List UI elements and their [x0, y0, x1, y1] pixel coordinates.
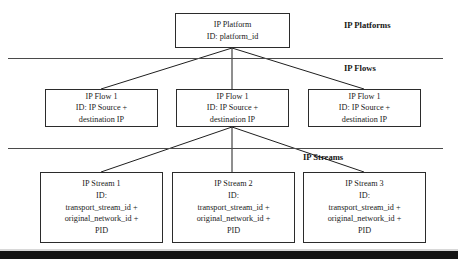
- node-ip-stream-2[interactable]: IP Stream 2 ID: transport_stream_id + or…: [172, 172, 295, 243]
- node-ip-stream-3-id-line-2: original_network_id +: [328, 213, 402, 225]
- tier-label-ip-platforms: IP Platforms: [344, 20, 391, 30]
- node-ip-stream-2-id-line-2: original_network_id +: [197, 213, 271, 225]
- node-ip-flow-2[interactable]: IP Flow 1 ID: IP Source + destination IP: [176, 89, 289, 127]
- node-ip-stream-1-id-line-1: transport_stream_id +: [65, 202, 137, 214]
- node-ip-stream-2-id-line-1: transport_stream_id +: [197, 202, 269, 214]
- node-ip-stream-1-name: IP Stream 1: [82, 178, 120, 190]
- node-ip-stream-1-id-line-3: PID: [95, 225, 108, 237]
- node-ip-stream-3-id-line-1: transport_stream_id +: [328, 202, 400, 214]
- node-ip-stream-1[interactable]: IP Stream 1 ID: transport_stream_id + or…: [40, 172, 163, 243]
- node-ip-stream-3[interactable]: IP Stream 3 ID: transport_stream_id + or…: [303, 172, 426, 243]
- node-ip-stream-2-name: IP Stream 2: [214, 178, 252, 190]
- node-ip-stream-1-id-line-2: original_network_id +: [65, 213, 139, 225]
- node-ip-stream-1-id-label: ID:: [96, 190, 107, 202]
- node-ip-flow-2-name: IP Flow 1: [217, 91, 249, 103]
- node-ip-stream-3-id-line-3: PID: [358, 225, 371, 237]
- node-ip-flow-1-name: IP Flow 1: [86, 91, 118, 103]
- node-ip-platform[interactable]: IP Platform ID: platform_id: [175, 13, 290, 48]
- hierarchy-diagram: IP Platforms IP Flows IP Streams IP Plat…: [0, 0, 458, 259]
- node-ip-stream-2-id-label: ID:: [228, 190, 239, 202]
- node-ip-stream-2-id-line-3: PID: [227, 225, 240, 237]
- node-ip-flow-2-id-line-1: ID: IP Source +: [207, 102, 258, 114]
- node-ip-flow-2-id-line-2: destination IP: [210, 114, 255, 126]
- tier-divider-flows: [8, 148, 443, 149]
- node-ip-platform-id: ID: platform_id: [207, 31, 259, 43]
- node-ip-flow-3[interactable]: IP Flow 1 ID: IP Source + destination IP: [308, 89, 421, 127]
- tier-label-ip-streams: IP Streams: [303, 152, 343, 162]
- connector-platform-to-flow-1: [101, 48, 232, 89]
- node-ip-flow-1-id-line-1: ID: IP Source +: [76, 102, 127, 114]
- page-edge-band: [0, 251, 458, 259]
- connector-flow-to-stream-3: [232, 127, 364, 172]
- node-ip-flow-3-id-line-1: ID: IP Source +: [339, 102, 390, 114]
- node-ip-flow-1[interactable]: IP Flow 1 ID: IP Source + destination IP: [45, 89, 158, 127]
- node-ip-platform-name: IP Platform: [214, 19, 252, 31]
- node-ip-stream-3-name: IP Stream 3: [345, 178, 383, 190]
- node-ip-flow-3-name: IP Flow 1: [349, 91, 381, 103]
- node-ip-flow-1-id-line-2: destination IP: [79, 114, 124, 126]
- tier-label-ip-flows: IP Flows: [344, 63, 376, 73]
- node-ip-stream-3-id-label: ID:: [359, 190, 370, 202]
- connector-flow-to-stream-1: [101, 127, 232, 172]
- node-ip-flow-3-id-line-2: destination IP: [342, 114, 387, 126]
- tier-divider-platforms: [8, 58, 443, 59]
